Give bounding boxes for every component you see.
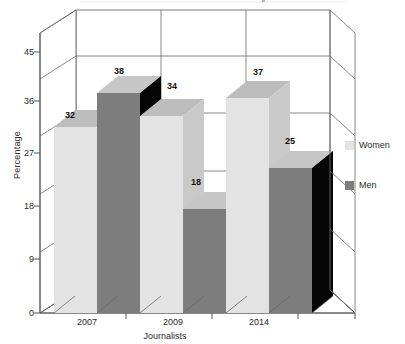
y-tick-45: 45 bbox=[8, 47, 34, 57]
x-tick-2014: 2014 bbox=[229, 317, 289, 327]
legend-item-women[interactable]: Women bbox=[345, 140, 405, 150]
bar-value-men-2014: 25 bbox=[285, 136, 295, 146]
legend-swatch-men-icon bbox=[345, 181, 354, 190]
bar-men-2014 bbox=[269, 151, 333, 313]
legend-label-men: Men bbox=[359, 180, 377, 190]
legend-label-women: Women bbox=[359, 140, 390, 150]
y-tick-0: 0 bbox=[8, 308, 34, 318]
y-axis bbox=[34, 33, 40, 313]
bar-value-women-2014: 37 bbox=[253, 67, 263, 77]
bar-value-men-2007: 38 bbox=[114, 66, 124, 76]
top-clipped-artifact bbox=[80, 0, 345, 2]
chart-legend: Women Men bbox=[345, 140, 405, 220]
bar-value-men-2009: 18 bbox=[191, 177, 201, 187]
legend-item-men[interactable]: Men bbox=[345, 180, 405, 190]
x-tick-2007: 2007 bbox=[57, 317, 117, 327]
bar-value-women-2009: 34 bbox=[167, 81, 177, 91]
y-axis-title: Percentage bbox=[12, 100, 22, 210]
y-tick-9: 9 bbox=[8, 254, 34, 264]
x-tick-2009: 2009 bbox=[143, 317, 203, 327]
bar-value-women-2007: 32 bbox=[65, 110, 75, 120]
x-axis-title: Journalists bbox=[0, 331, 330, 341]
legend-swatch-women-icon bbox=[345, 141, 354, 150]
bar-chart: 45 36 27 18 9 0 Percentage 2007 2009 201… bbox=[0, 0, 405, 344]
